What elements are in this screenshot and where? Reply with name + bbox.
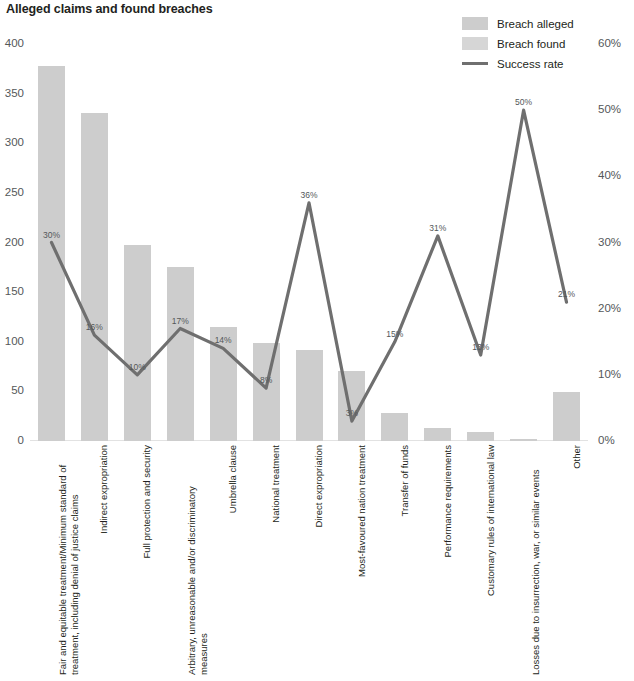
x-axis-label: Customary rules of international law bbox=[485, 445, 497, 596]
line-point-label: 3% bbox=[346, 409, 358, 418]
x-axis-label: National treatment bbox=[270, 445, 282, 523]
line-point-label: 14% bbox=[215, 336, 232, 345]
y-tick-left: 150 bbox=[5, 286, 24, 298]
legend-swatch-icon bbox=[462, 17, 488, 30]
y-tick-right: 30% bbox=[598, 237, 621, 249]
y-tick-left: 100 bbox=[5, 336, 24, 348]
line-point-label: 21% bbox=[558, 290, 575, 299]
line-point-label: 30% bbox=[43, 230, 60, 239]
legend-label: Breach alleged bbox=[497, 18, 574, 30]
line-point-label: 17% bbox=[172, 316, 189, 325]
y-tick-left: 400 bbox=[5, 38, 24, 50]
line-point-label: 15% bbox=[386, 329, 403, 338]
y-tick-left: 50 bbox=[11, 385, 24, 397]
y-axis-left: 400350300250200150100500 bbox=[0, 44, 28, 441]
y-tick-left: 300 bbox=[5, 137, 24, 149]
x-axis-categories: Fair and equitable treatment/Minimum sta… bbox=[30, 445, 588, 675]
x-axis-label: Losses due to insurrection, war, or simi… bbox=[530, 445, 542, 675]
x-axis-label: Transfer of funds bbox=[399, 445, 411, 516]
plot-area: 30%16%10%17%14%8%36%3%15%31%13%50%21% bbox=[30, 44, 588, 441]
x-axis-label: Other bbox=[571, 445, 583, 469]
x-axis-label: Most-favoured nation treatment bbox=[356, 445, 368, 577]
y-tick-right: 10% bbox=[598, 369, 621, 381]
x-axis-label: Direct expropriation bbox=[313, 445, 325, 527]
y-axis-right: 60%50%40%30%20%10%0% bbox=[592, 44, 634, 441]
x-axis-label: Fair and equitable treatment/Minimum sta… bbox=[57, 445, 80, 675]
line-point-label: 31% bbox=[429, 223, 446, 232]
line-point-label: 50% bbox=[515, 98, 532, 107]
success-rate-line bbox=[30, 44, 588, 441]
y-tick-right: 20% bbox=[598, 303, 621, 315]
line-point-label: 13% bbox=[472, 342, 489, 351]
y-tick-right: 60% bbox=[598, 38, 621, 50]
x-axis-label: Performance requirements bbox=[442, 445, 454, 557]
legend-item-breach-alleged: Breach alleged bbox=[462, 14, 612, 33]
x-axis-label: Arbitrary, unreasonable and/or discrimin… bbox=[186, 445, 209, 675]
y-tick-left: 0 bbox=[18, 435, 24, 447]
x-axis-label: Full protection and security bbox=[141, 445, 153, 559]
y-tick-right: 50% bbox=[598, 104, 621, 116]
y-tick-right: 0% bbox=[598, 435, 615, 447]
y-tick-right: 40% bbox=[598, 170, 621, 182]
y-tick-left: 250 bbox=[5, 187, 24, 199]
page-title: Alleged claims and found breaches bbox=[6, 2, 212, 16]
line-point-label: 8% bbox=[260, 376, 272, 385]
line-point-label: 16% bbox=[86, 323, 103, 332]
x-axis-label: Indirect expropriation bbox=[98, 445, 110, 534]
line-point-label: 10% bbox=[129, 362, 146, 371]
y-tick-left: 200 bbox=[5, 237, 24, 249]
line-point-label: 36% bbox=[300, 190, 317, 199]
x-axis-label: Umbrella clause bbox=[227, 445, 239, 513]
y-tick-left: 350 bbox=[5, 88, 24, 100]
